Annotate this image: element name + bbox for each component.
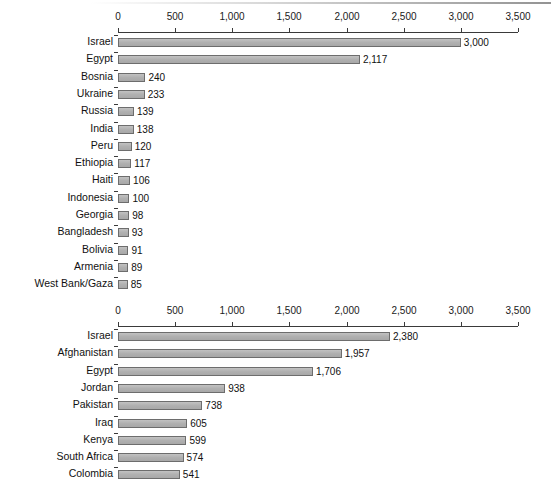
category-label: Haiti — [1, 173, 113, 185]
bar — [118, 332, 390, 341]
x-axis-tick-label: 500 — [167, 12, 184, 22]
bar — [118, 38, 461, 47]
y-axis-tick — [114, 433, 118, 434]
bar — [118, 211, 129, 220]
y-axis-tick — [114, 416, 118, 417]
x-axis-tick — [289, 28, 290, 32]
chart-row: Bangladesh93 — [0, 224, 551, 241]
x-axis-tick — [461, 322, 462, 326]
chart-row: Pakistan738 — [0, 397, 551, 414]
category-label: Georgia — [1, 208, 113, 220]
bar — [118, 142, 132, 151]
category-label: Ethiopia — [1, 156, 113, 168]
chart-row: Armenia89 — [0, 259, 551, 276]
bar-value-label: 1,957 — [345, 349, 370, 359]
x-axis-line — [118, 326, 518, 327]
x-axis-tick — [175, 28, 176, 32]
y-axis-tick — [114, 35, 118, 36]
chart-row: Colombia541 — [0, 466, 551, 483]
bar-value-label: 106 — [133, 176, 150, 186]
bar-value-label: 91 — [131, 246, 142, 256]
y-axis-tick — [114, 173, 118, 174]
category-label: Egypt — [1, 52, 113, 64]
x-axis-tick-label: 0 — [115, 306, 121, 316]
category-label: Colombia — [1, 467, 113, 479]
chart-row: Georgia98 — [0, 207, 551, 224]
chart-row: Kenya599 — [0, 432, 551, 449]
x-axis-tick-label: 2,000 — [334, 306, 359, 316]
category-label: Kenya — [1, 433, 113, 445]
category-label: Egypt — [1, 364, 113, 376]
chart-row: Russia139 — [0, 103, 551, 120]
category-label: India — [1, 122, 113, 134]
x-axis-tick — [404, 322, 405, 326]
chart-row: South Africa574 — [0, 449, 551, 466]
x-axis-tick — [461, 28, 462, 32]
bar-value-label: 605 — [190, 419, 207, 429]
bar — [118, 453, 184, 462]
y-axis-tick — [114, 381, 118, 382]
bar-value-label: 138 — [137, 125, 154, 135]
x-axis-tick-label: 1,000 — [219, 306, 244, 316]
bar — [118, 470, 180, 479]
x-axis-tick — [232, 28, 233, 32]
x-axis-tick — [175, 322, 176, 326]
bar-value-label: 120 — [135, 142, 152, 152]
bar-value-label: 93 — [132, 228, 143, 238]
chart-row: Israel3,000 — [0, 34, 551, 51]
y-axis-tick — [114, 225, 118, 226]
chart-row: Afghanistan1,957 — [0, 345, 551, 362]
bar-value-label: 89 — [131, 263, 142, 273]
y-axis-tick — [114, 70, 118, 71]
bar — [118, 280, 128, 289]
bar-value-label: 574 — [187, 453, 204, 463]
x-axis-tick-label: 500 — [167, 306, 184, 316]
y-axis-tick — [114, 191, 118, 192]
bar — [118, 194, 129, 203]
bar-value-label: 139 — [137, 107, 154, 117]
y-axis-tick — [114, 277, 118, 278]
x-axis-tick-label: 1,500 — [276, 12, 301, 22]
y-axis-tick — [114, 364, 118, 365]
bar — [118, 246, 128, 255]
x-axis-tick-label: 2,000 — [334, 12, 359, 22]
bar — [118, 159, 131, 168]
bar-value-label: 599 — [189, 436, 206, 446]
x-axis-tick — [518, 322, 519, 326]
chart-row: India138 — [0, 121, 551, 138]
x-axis-tick — [347, 28, 348, 32]
category-label: Israel — [1, 35, 113, 47]
bar-value-label: 738 — [205, 401, 222, 411]
bar-value-label: 233 — [148, 90, 165, 100]
bar — [118, 401, 202, 410]
chart-row: Bolivia91 — [0, 242, 551, 259]
x-axis-tick-label: 3,000 — [448, 12, 473, 22]
x-axis-tick-label: 1,500 — [276, 306, 301, 316]
x-axis-tick — [347, 322, 348, 326]
x-axis-tick-label: 1,000 — [219, 12, 244, 22]
bar — [118, 125, 134, 134]
bar — [118, 384, 225, 393]
chart-row: Egypt2,117 — [0, 51, 551, 68]
category-label: Israel — [1, 329, 113, 341]
x-axis-tick-label: 3,500 — [505, 306, 530, 316]
bar — [118, 349, 342, 358]
category-label: Iraq — [1, 416, 113, 428]
category-label: Armenia — [1, 260, 113, 272]
x-axis-tick-label: 3,500 — [505, 12, 530, 22]
chart-row: Ukraine233 — [0, 86, 551, 103]
y-axis-tick — [114, 208, 118, 209]
category-label: Bangladesh — [1, 225, 113, 237]
chart-row: West Bank/Gaza85 — [0, 276, 551, 293]
bar-value-label: 85 — [131, 280, 142, 290]
category-label: Peru — [1, 139, 113, 151]
y-axis-tick — [114, 450, 118, 451]
y-axis-tick — [114, 243, 118, 244]
bar — [118, 107, 134, 116]
x-axis-tick — [232, 322, 233, 326]
category-label: South Africa — [1, 450, 113, 462]
y-axis-tick — [114, 52, 118, 53]
x-axis-tick — [289, 322, 290, 326]
bar — [118, 367, 313, 376]
